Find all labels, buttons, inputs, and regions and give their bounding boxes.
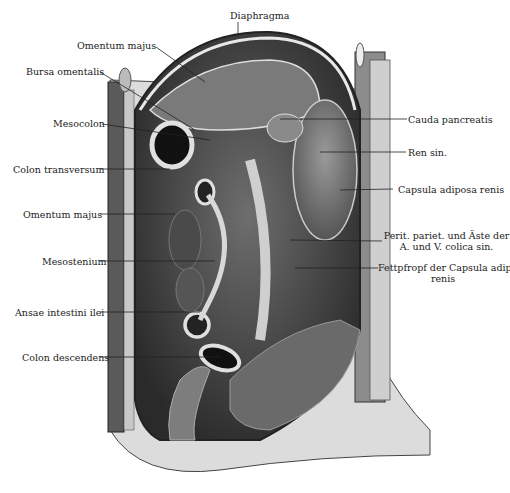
label-omentum-majus-top: Omentum majus bbox=[77, 40, 156, 51]
label-fettpfropf-line1: Fettpfropf der Capsula adip. bbox=[378, 262, 508, 273]
label-fettpfropf: Fettpfropf der Capsula adip. renis bbox=[378, 262, 508, 284]
label-diaphragma: Diaphragma bbox=[230, 10, 289, 21]
anatomical-figure: Diaphragma Omentum majus Bursa omentalis… bbox=[0, 0, 510, 493]
label-perit-line1: Perit. pariet. und Äste der bbox=[383, 230, 510, 241]
label-bursa-omentalis: Bursa omentalis bbox=[26, 66, 104, 77]
label-mesocolon: Mesocolon bbox=[53, 118, 105, 129]
label-omentum-majus-mid: Omentum majus bbox=[23, 209, 102, 220]
label-fettpfropf-line2: renis bbox=[378, 273, 508, 284]
label-cauda-pancreatis: Cauda pancreatis bbox=[408, 114, 493, 125]
label-perit-pariet: Perit. pariet. und Äste der A. und V. co… bbox=[383, 230, 510, 252]
label-mesostenium: Mesostenium bbox=[42, 256, 107, 267]
label-perit-line2: A. und V. colica sin. bbox=[383, 241, 510, 252]
label-colon-descendens: Colon descendens bbox=[22, 352, 109, 363]
label-colon-transversum: Colon transversum bbox=[13, 164, 104, 175]
label-capsula-adiposa-renis: Capsula adiposa renis bbox=[398, 184, 504, 195]
label-ansae-intestini-ilei: Ansae intestini ilei bbox=[15, 307, 104, 318]
label-ren-sin: Ren sin. bbox=[408, 147, 447, 158]
